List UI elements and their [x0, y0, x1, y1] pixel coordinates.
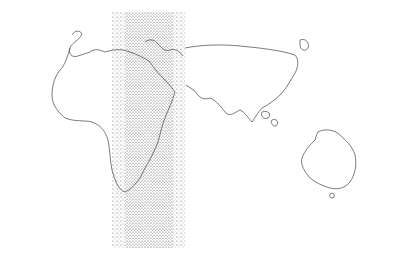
migration-diagram	[0, 0, 400, 260]
stipple-band	[112, 12, 185, 248]
continent-outlines	[52, 31, 356, 198]
world-map-grid	[0, 0, 400, 260]
